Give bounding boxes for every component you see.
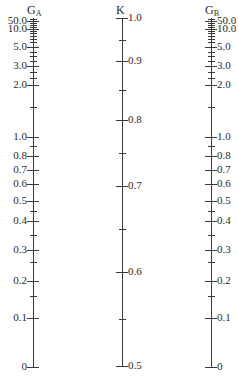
major-tick (205, 318, 217, 319)
scale-title: GA (27, 4, 41, 20)
tick-label: 0 (217, 361, 223, 372)
tick-label: 0.8 (217, 150, 231, 161)
tick-label: 2.0 (13, 79, 27, 90)
tick-label: 0.7 (217, 164, 231, 175)
minor-tick (208, 235, 215, 236)
tick-label: 0.3 (13, 244, 27, 255)
tick-label: 0.5 (217, 195, 231, 206)
minor-tick (30, 31, 37, 32)
tick-label: 0 (22, 361, 28, 372)
major-tick (27, 47, 39, 48)
major-tick (27, 21, 39, 22)
major-tick (27, 66, 39, 67)
tick-label: 2.0 (217, 79, 231, 90)
tick-label: 1.0 (128, 12, 142, 23)
tick-label: 0.5 (13, 195, 27, 206)
minor-tick (30, 235, 37, 236)
minor-tick (30, 211, 37, 212)
major-tick (116, 186, 128, 187)
minor-tick (208, 61, 215, 62)
major-tick (205, 184, 217, 185)
scale-line (33, 18, 34, 367)
minor-tick (208, 36, 215, 37)
tick-label: 3.0 (217, 60, 231, 71)
minor-tick (30, 52, 37, 53)
scale-title: K (116, 4, 125, 16)
minor-tick (208, 296, 215, 297)
minor-tick (30, 107, 37, 108)
tick-label: 0.1 (217, 312, 231, 323)
minor-tick (208, 31, 215, 32)
minor-tick (208, 39, 215, 40)
major-tick (27, 156, 39, 157)
minor-tick (119, 40, 126, 41)
minor-tick (208, 262, 215, 263)
minor-tick (208, 78, 215, 79)
minor-tick (30, 56, 37, 57)
major-tick (205, 21, 217, 22)
tick-label: 0.2 (13, 275, 27, 286)
major-tick (205, 156, 217, 157)
minor-tick (208, 33, 215, 34)
minor-tick (208, 72, 215, 73)
minor-tick (30, 27, 37, 28)
major-tick (205, 201, 217, 202)
tick-label: 0.2 (217, 275, 231, 286)
scale-line (122, 18, 123, 367)
tick-label: 0.5 (128, 360, 142, 371)
minor-tick (208, 107, 215, 108)
major-tick (27, 281, 39, 282)
minor-tick (30, 19, 37, 20)
major-tick (205, 281, 217, 282)
minor-tick (208, 211, 215, 212)
minor-tick (30, 36, 37, 37)
minor-tick (208, 25, 215, 26)
minor-tick (208, 27, 215, 28)
tick-label: 10.0 (8, 23, 27, 34)
major-tick (27, 250, 39, 251)
minor-tick (30, 296, 37, 297)
minor-tick (30, 262, 37, 263)
minor-tick (119, 153, 126, 154)
major-tick (27, 367, 39, 368)
minor-tick (30, 23, 37, 24)
minor-tick (30, 25, 37, 26)
minor-tick (119, 229, 126, 230)
major-tick (205, 170, 217, 171)
major-tick (205, 221, 217, 222)
major-tick (116, 120, 128, 121)
major-tick (27, 85, 39, 86)
major-tick (205, 29, 217, 30)
tick-label: 1.0 (13, 131, 27, 142)
major-tick (205, 85, 217, 86)
minor-tick (208, 56, 215, 57)
tick-label: 0.8 (13, 150, 27, 161)
tick-label: 0.6 (128, 266, 142, 277)
tick-label: 0.9 (128, 55, 142, 66)
tick-label: 5.0 (13, 41, 27, 52)
scale-line (211, 18, 212, 367)
minor-tick (30, 42, 37, 43)
major-tick (27, 170, 39, 171)
minor-tick (208, 146, 215, 147)
major-tick (27, 221, 39, 222)
minor-tick (208, 42, 215, 43)
tick-label: 0.3 (217, 244, 231, 255)
minor-tick (30, 78, 37, 79)
minor-tick (30, 72, 37, 73)
major-tick (116, 272, 128, 273)
tick-label: 0.7 (128, 180, 142, 191)
minor-tick (119, 319, 126, 320)
minor-tick (119, 90, 126, 91)
tick-label: 0.8 (128, 114, 142, 125)
major-tick (27, 137, 39, 138)
tick-label: 1.0 (217, 131, 231, 142)
minor-tick (208, 19, 215, 20)
major-tick (27, 201, 39, 202)
minor-tick (208, 52, 215, 53)
major-tick (27, 184, 39, 185)
major-tick (205, 250, 217, 251)
tick-label: 5.0 (217, 41, 231, 52)
tick-label: 0.4 (13, 215, 27, 226)
tick-label: 0.6 (217, 178, 231, 189)
